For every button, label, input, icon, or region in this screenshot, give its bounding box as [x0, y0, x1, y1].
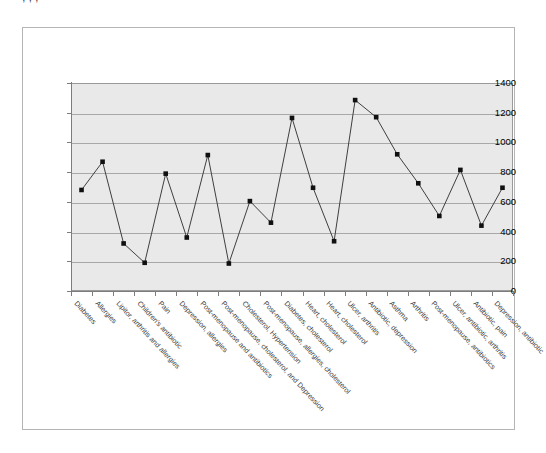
x-tick-label: Arthritis	[409, 299, 432, 323]
data-point-marker	[437, 214, 442, 219]
data-point-marker	[269, 220, 274, 225]
data-point-marker	[142, 260, 147, 265]
data-point-marker	[416, 181, 421, 186]
data-point-marker	[479, 223, 484, 228]
chart-frame: 1400120010008006004002000 DiabetesAllerg…	[22, 27, 515, 430]
data-point-marker	[227, 261, 232, 266]
data-point-marker	[374, 115, 379, 120]
data-point-marker	[458, 168, 463, 173]
x-tick-label: Allergies	[93, 299, 118, 325]
data-series	[71, 83, 513, 291]
x-tick-mark	[155, 292, 156, 296]
x-tick-mark	[197, 292, 198, 296]
x-tick-mark	[260, 292, 261, 296]
x-axis-line	[71, 291, 514, 292]
data-point-marker	[206, 153, 211, 158]
x-tick-label: Pain	[156, 299, 172, 316]
x-tick-mark	[71, 292, 72, 296]
x-tick-mark	[387, 292, 388, 296]
x-tick-mark	[513, 292, 514, 296]
x-tick-mark	[281, 292, 282, 296]
chart-plot-wrapper: 1400120010008006004002000 DiabetesAllerg…	[23, 28, 516, 431]
data-point-marker	[311, 185, 316, 190]
x-tick-mark	[239, 292, 240, 296]
data-point-marker	[79, 188, 84, 193]
clipped-caption-text: · · , , ,	[8, 0, 528, 3]
x-tick-mark	[429, 292, 430, 296]
x-tick-mark	[450, 292, 451, 296]
series-line	[82, 100, 503, 263]
x-tick-mark	[176, 292, 177, 296]
x-tick-mark	[492, 292, 493, 296]
x-tick-mark	[303, 292, 304, 296]
x-tick-mark	[366, 292, 367, 296]
x-tick-mark	[408, 292, 409, 296]
data-point-marker	[290, 116, 295, 121]
data-point-marker	[248, 199, 253, 204]
x-tick-mark	[471, 292, 472, 296]
x-tick-mark	[345, 292, 346, 296]
data-point-marker	[395, 152, 400, 157]
x-tick-mark	[92, 292, 93, 296]
data-point-marker	[332, 239, 337, 244]
x-tick-mark	[113, 292, 114, 296]
data-point-marker	[500, 185, 505, 190]
series-markers	[79, 98, 505, 266]
data-point-marker	[184, 235, 189, 240]
x-tick-mark	[134, 292, 135, 296]
data-point-marker	[121, 241, 126, 246]
data-point-marker	[353, 98, 358, 103]
x-tick-mark	[324, 292, 325, 296]
data-point-marker	[163, 171, 168, 176]
x-tick-mark	[218, 292, 219, 296]
data-point-marker	[100, 159, 105, 164]
